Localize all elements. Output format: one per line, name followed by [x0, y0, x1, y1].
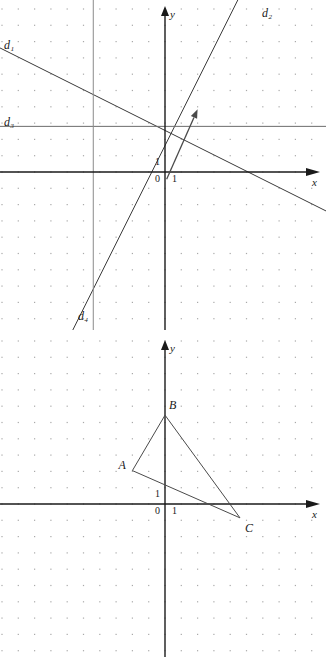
grid-dot — [148, 318, 149, 319]
grid-dot — [230, 204, 231, 205]
grid-dot — [213, 422, 214, 423]
grid-dot — [262, 487, 263, 488]
grid-dot — [279, 41, 280, 42]
grid-dot — [67, 340, 68, 341]
grid-dot — [34, 650, 35, 651]
grid-dot — [279, 74, 280, 75]
grid-dot — [67, 269, 68, 270]
grid-dot — [230, 536, 231, 537]
grid-dot — [295, 25, 296, 26]
grid-dot — [67, 357, 68, 358]
grid-dot — [18, 318, 19, 319]
grid-dot — [67, 106, 68, 107]
grid-dot — [67, 552, 68, 553]
lower-graph-canvas: xy011ABC — [0, 330, 326, 657]
grid-dot — [132, 438, 133, 439]
grid-dot — [18, 106, 19, 107]
grid-dot — [295, 155, 296, 156]
grid-dot — [181, 253, 182, 254]
grid-dot — [148, 90, 149, 91]
grid-dot — [18, 25, 19, 26]
grid-dot — [116, 471, 117, 472]
grid-dot — [116, 357, 117, 358]
grid-dot — [213, 618, 214, 619]
grid-dot — [246, 302, 247, 303]
grid-dot — [311, 389, 312, 390]
grid-dot — [34, 585, 35, 586]
grid-dot — [148, 220, 149, 221]
grid-dot — [99, 90, 100, 91]
grid-dot — [148, 204, 149, 205]
grid-dot — [99, 123, 100, 124]
grid-dot — [279, 618, 280, 619]
grid-dot — [67, 585, 68, 586]
grid-dot — [132, 318, 133, 319]
grid-dot — [213, 41, 214, 42]
grid-dot — [18, 569, 19, 570]
grid-dot — [132, 106, 133, 107]
grid-dot — [197, 406, 198, 407]
grid-dot — [50, 471, 51, 472]
grid-dot — [197, 552, 198, 553]
grid-dot — [295, 634, 296, 635]
grid-dot — [116, 552, 117, 553]
grid-dot — [116, 74, 117, 75]
grid-dot — [295, 41, 296, 42]
grid-dot — [148, 585, 149, 586]
grid-dot — [311, 139, 312, 140]
grid-dot — [34, 41, 35, 42]
grid-dot — [148, 650, 149, 651]
grid-dot — [262, 220, 263, 221]
grid-dot — [311, 406, 312, 407]
grid-dot — [67, 634, 68, 635]
grid-dot — [148, 269, 149, 270]
grid-dot — [99, 438, 100, 439]
grid-dot — [1, 253, 2, 254]
grid-dot — [99, 487, 100, 488]
grid-dot — [18, 406, 19, 407]
grid-dot — [83, 422, 84, 423]
grid-dot — [34, 536, 35, 537]
grid-dot — [181, 373, 182, 374]
grid-dot — [246, 650, 247, 651]
grid-dot — [181, 123, 182, 124]
grid-dot — [148, 237, 149, 238]
grid-dot — [67, 650, 68, 651]
grid-dot — [132, 536, 133, 537]
grid-dot — [132, 57, 133, 58]
grid-dot — [295, 90, 296, 91]
grid-dot — [262, 253, 263, 254]
grid-dot — [132, 139, 133, 140]
grid-dot — [18, 618, 19, 619]
grid-dot — [18, 520, 19, 521]
grid-dot — [99, 340, 100, 341]
grid-dot — [34, 286, 35, 287]
grid-dot — [67, 373, 68, 374]
grid-dot — [197, 269, 198, 270]
grid-dot — [213, 585, 214, 586]
grid-dot — [1, 269, 2, 270]
grid-dot — [83, 520, 84, 521]
grid-dot — [246, 286, 247, 287]
grid-dot — [99, 286, 100, 287]
grid-dot — [181, 74, 182, 75]
grid-dot — [34, 57, 35, 58]
grid-dot — [50, 520, 51, 521]
grid-dot — [197, 438, 198, 439]
line-label-d3: d₃ — [4, 115, 14, 129]
grid-dot — [246, 139, 247, 140]
grid-dot — [246, 90, 247, 91]
grid-dot — [197, 389, 198, 390]
grid-dot — [279, 406, 280, 407]
grid-dot — [295, 106, 296, 107]
grid-dot — [50, 585, 51, 586]
grid-dot — [197, 357, 198, 358]
grid-dot — [1, 106, 2, 107]
grid-dot — [83, 41, 84, 42]
grid-dot — [230, 406, 231, 407]
grid-dot — [34, 569, 35, 570]
grid-dot — [197, 569, 198, 570]
grid-dot — [99, 74, 100, 75]
grid-dot — [83, 471, 84, 472]
grid-dot — [50, 204, 51, 205]
